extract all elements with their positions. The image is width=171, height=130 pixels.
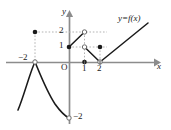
tick-label-x-2: 2 — [97, 64, 102, 73]
tick-label-y-2: 2 — [59, 26, 64, 35]
piecewise-segments-group — [69, 23, 148, 62]
graph-figure: y x O 2 1 −2 −2 1 2 y=f(x) — [0, 0, 171, 130]
point-open-neg2-0 — [33, 60, 37, 64]
origin-label: O — [61, 63, 68, 72]
tick-label-x-1: 1 — [82, 64, 87, 73]
y-axis-arrow — [66, 10, 73, 17]
point-open-1-2 — [82, 30, 86, 34]
filled-points-group — [33, 30, 103, 65]
point-open-0-neg2 — [67, 116, 71, 120]
segment-rise-0-1 — [69, 32, 85, 47]
point-filled-0-1 — [67, 45, 72, 50]
open-points-group — [33, 30, 102, 120]
tick-label-x-neg2: −2 — [18, 53, 28, 62]
point-filled-neg2-2 — [33, 30, 38, 35]
tick-label-y-neg2: −2 — [73, 112, 83, 121]
tick-label-y-1: 1 — [59, 41, 64, 50]
point-open-1-1 — [82, 45, 86, 49]
segment-rise-2-5 — [100, 23, 148, 62]
y-axis-label: y — [62, 7, 66, 16]
x-axis-label: x — [157, 62, 161, 71]
function-label: y=f(x) — [118, 14, 141, 23]
point-filled-2-1 — [98, 45, 103, 50]
segment-fall-1-2 — [85, 47, 101, 62]
